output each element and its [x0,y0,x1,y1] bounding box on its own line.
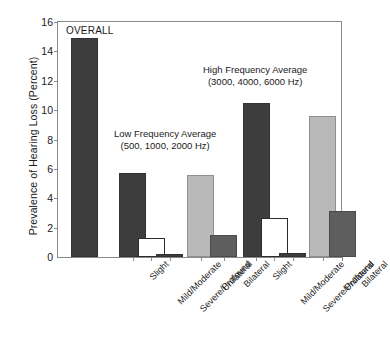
x-tick-label: Slight [148,259,171,282]
low-frequency-annotation-line1: Low Frequency Average [114,128,216,140]
y-axis-title: Prevalence of Hearing Loss (Percent) [27,21,39,271]
y-tick-mark [54,140,58,141]
y-tick-mark [54,110,58,111]
x-tick-label: Slight [271,259,294,282]
bar [210,235,237,257]
y-tick-mark [54,22,58,23]
y-tick-mark [54,169,58,170]
x-axis-labels: SlightMild/ModerateSevere/ProfoundUnilat… [57,259,342,339]
y-tick-mark [54,228,58,229]
bar [71,38,98,257]
overall-annotation: OVERALL [66,25,114,36]
y-tick-mark [54,198,58,199]
y-tick-mark [54,51,58,52]
bar [261,218,288,257]
high-frequency-annotation-line1: High Frequency Average [203,64,307,76]
plot-area: OVERALL Low Frequency Average (500, 1000… [57,21,342,258]
x-tick-mark [342,257,343,261]
high-frequency-annotation: High Frequency Average (3000, 4000, 6000… [203,64,307,87]
low-frequency-annotation: Low Frequency Average (500, 1000, 2000 H… [114,128,216,151]
low-frequency-annotation-line2: (500, 1000, 2000 Hz) [114,140,216,152]
y-tick-mark [54,81,58,82]
bar [329,211,356,257]
high-frequency-annotation-line2: (3000, 4000, 6000 Hz) [203,76,307,88]
